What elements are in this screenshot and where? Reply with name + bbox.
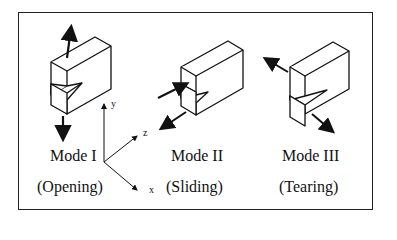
y-axis-label: y bbox=[111, 98, 116, 109]
z-axis-label: z bbox=[143, 127, 147, 138]
mode-2-block bbox=[181, 41, 243, 115]
mode-1-block bbox=[51, 37, 111, 114]
mode-3-label: Mode III bbox=[282, 147, 339, 165]
mode-2-out-arrow bbox=[162, 112, 186, 128]
mode-3-description: (Tearing) bbox=[279, 178, 338, 196]
mode-2-label: Mode II bbox=[171, 147, 223, 165]
mode-2-description: (Sliding) bbox=[166, 178, 223, 196]
x-axis-label: x bbox=[149, 184, 154, 195]
coordinate-axes bbox=[104, 104, 137, 190]
mode-3-block bbox=[290, 42, 349, 126]
mode-1-description: (Opening) bbox=[37, 178, 103, 196]
mode-3-down-arrow bbox=[312, 114, 332, 131]
mode-3-up-arrow bbox=[266, 59, 288, 72]
mode-1-label: Mode I bbox=[50, 147, 97, 165]
